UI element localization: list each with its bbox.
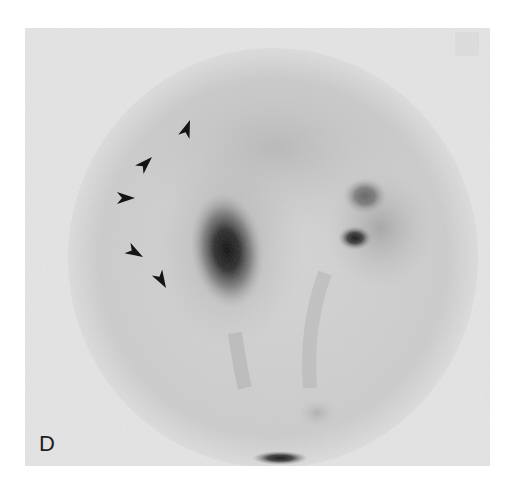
scintigraphy-image — [25, 28, 490, 466]
panel-label: D — [39, 433, 55, 455]
scintigraphy-panel: D — [25, 28, 490, 466]
